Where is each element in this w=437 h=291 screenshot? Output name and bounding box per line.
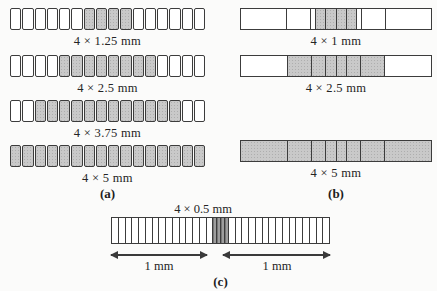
- detector-row-group: 4 × 5 mm: [10, 145, 205, 186]
- detector-cell-shaded: [133, 55, 144, 77]
- detector-cell-unshaded: [157, 55, 168, 77]
- detector-cell-shaded: [108, 100, 119, 122]
- detector-cell-shaded: [96, 100, 107, 122]
- detector-cell-shaded: [10, 145, 21, 167]
- detector-cell-shaded: [120, 55, 131, 77]
- detector-cell-shaded: [47, 100, 58, 122]
- detector-cell-unshaded: [10, 100, 21, 122]
- left-measure-arrow-icon: [111, 254, 207, 256]
- detector-cell-shaded: [120, 145, 131, 167]
- detector-row-group: 4 × 1.25 mm: [10, 8, 205, 49]
- panel-b: 4 × 1 mm 4 × 2.5 mm 4 × 5 mm (b): [240, 8, 432, 204]
- detector-cell-unshaded: [295, 218, 302, 243]
- panel-c-caption: (c): [111, 274, 330, 290]
- detector-cell-unshaded: [145, 8, 156, 30]
- detector-cell-shaded: [360, 141, 384, 161]
- detector-cell-shaded: [157, 145, 168, 167]
- detector-array-a4: [10, 145, 205, 167]
- detector-cell-shaded: [59, 145, 70, 167]
- detector-cell-unshaded: [35, 55, 46, 77]
- panel-a: 4 × 1.25 mm 4 × 2.5 mm 4 × 3.75 mm 4 × 5…: [10, 8, 205, 204]
- detector-cell-unshaded: [133, 8, 144, 30]
- detector-cell-shaded: [287, 141, 311, 161]
- detector-array-figure: 4 × 1.25 mm 4 × 2.5 mm 4 × 3.75 mm 4 × 5…: [0, 0, 437, 291]
- detector-cell-unshaded: [385, 9, 431, 29]
- detector-cell-shaded: [169, 100, 180, 122]
- detector-cell-shaded: [360, 56, 384, 76]
- detector-cell-shaded: [35, 100, 46, 122]
- detector-config-label: 4 × 5 mm: [10, 171, 205, 186]
- detector-cell-unshaded: [241, 218, 248, 243]
- detector-cell-unshaded: [22, 8, 33, 30]
- detector-cell-shaded: [311, 56, 326, 76]
- detector-cell-unshaded: [255, 218, 262, 243]
- detector-cell-shaded: [325, 56, 335, 76]
- detector-cell-unshaded: [262, 218, 269, 243]
- detector-cell-shaded: [84, 145, 95, 167]
- panel-b-caption: (b): [240, 186, 432, 202]
- detector-cell-shaded: [145, 145, 156, 167]
- detector-config-label: 4 × 2.5 mm: [240, 81, 432, 96]
- detector-cell-shaded: [120, 100, 131, 122]
- detector-row-group: 4 × 5 mm: [240, 140, 432, 181]
- detector-array-a2: [10, 55, 205, 77]
- detector-cell-unshaded: [268, 218, 275, 243]
- detector-cell-unshaded: [361, 9, 385, 29]
- detector-cell-shaded: [96, 8, 107, 30]
- detector-cell-shaded: [22, 145, 33, 167]
- detector-cell-shaded: [287, 56, 311, 76]
- detector-cell-unshaded: [194, 100, 205, 122]
- detector-cell-unshaded: [302, 218, 309, 243]
- detector-cell-shaded: [384, 141, 431, 161]
- detector-cell-unshaded: [10, 8, 21, 30]
- detector-cell-unshaded: [289, 218, 296, 243]
- detector-config-label: 4 × 5 mm: [240, 166, 432, 181]
- detector-config-label: 4 × 1.25 mm: [10, 34, 205, 49]
- detector-array-b1: [240, 8, 432, 30]
- detector-cell-shaded: [84, 8, 95, 30]
- detector-array-a1: [10, 8, 205, 30]
- panel-a-caption: (a): [10, 186, 205, 202]
- detector-config-label: 4 × 1 mm: [240, 34, 432, 49]
- detector-cell-unshaded: [158, 218, 165, 243]
- detector-row-group: 4 × 2.5 mm: [240, 55, 432, 96]
- detector-row-group: 4 × 3.75 mm: [10, 100, 205, 141]
- detector-cell-shaded: [315, 9, 325, 29]
- detector-cell-unshaded: [152, 218, 159, 243]
- detector-cell-shaded: [346, 9, 356, 29]
- detector-cell-unshaded: [194, 8, 205, 30]
- right-measure-label: 1 mm: [263, 259, 292, 274]
- detector-cell-unshaded: [138, 218, 145, 243]
- panel-c: 4 × 0.5 mm 1 mm 1 mm (c): [111, 202, 330, 291]
- detector-array-c: [111, 217, 330, 244]
- detector-cell-unshaded: [192, 218, 199, 243]
- detector-cell-unshaded: [275, 218, 282, 243]
- detector-cell-shaded: [157, 100, 168, 122]
- detector-cell-shaded: [96, 145, 107, 167]
- detector-cell-unshaded: [157, 8, 168, 30]
- detector-cell-unshaded: [182, 100, 193, 122]
- detector-cell-unshaded: [47, 8, 58, 30]
- detector-cell-unshaded: [286, 9, 310, 29]
- detector-cell-shaded: [336, 56, 346, 76]
- detector-cell-shaded: [169, 145, 180, 167]
- left-measure-label: 1 mm: [145, 259, 174, 274]
- detector-cell-unshaded: [228, 218, 235, 243]
- detector-cell-unshaded: [71, 8, 82, 30]
- detector-cell-shaded: [241, 141, 287, 161]
- detector-cell-unshaded: [322, 218, 329, 243]
- detector-cell-unshaded: [22, 100, 33, 122]
- detector-cell-shaded: [71, 145, 82, 167]
- detector-cell-shaded: [336, 9, 346, 29]
- detector-cell-unshaded: [165, 218, 172, 243]
- detector-cell-shaded: [145, 55, 156, 77]
- detector-cell-shaded: [133, 100, 144, 122]
- detector-cell-shaded: [311, 141, 326, 161]
- detector-cell-shaded: [120, 8, 131, 30]
- detector-cell-unshaded: [235, 218, 242, 243]
- detector-cell-unshaded: [35, 8, 46, 30]
- detector-cell-unshaded: [179, 218, 186, 243]
- detector-cell-unshaded: [182, 8, 193, 30]
- detector-cell-shaded: [96, 55, 107, 77]
- detector-cell-shaded: [108, 145, 119, 167]
